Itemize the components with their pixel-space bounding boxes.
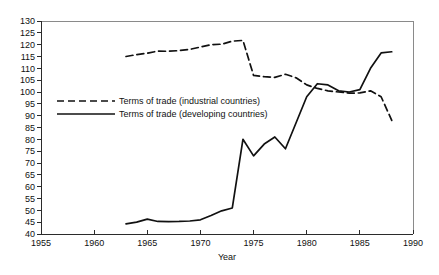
y-axis-tick-label: 95 — [25, 99, 35, 109]
y-axis-tick-label: 50 — [25, 206, 35, 216]
y-axis-tick-label: 110 — [21, 64, 35, 74]
x-axis-tick-label: 1955 — [31, 238, 51, 248]
x-axis-tick-label: 1965 — [137, 238, 157, 248]
legend-label: Terms of trade (industrial countries) — [119, 96, 260, 106]
x-axis: 19551960196519701975198019851990 Year — [31, 230, 423, 262]
x-axis-tick-label: 1970 — [190, 238, 210, 248]
x-axis-title: Year — [218, 252, 236, 262]
y-axis-tick-label: 55 — [25, 194, 35, 204]
y-axis-tick-label: 85 — [25, 123, 35, 133]
y-axis-tick-label: 70 — [25, 158, 35, 168]
series-line-developing — [126, 52, 392, 224]
y-axis-tick-label: 115 — [21, 52, 35, 62]
terms-of-trade-line-chart: 4045505560657075808590951001051101151201… — [0, 0, 439, 275]
y-axis-tick-label: 120 — [20, 40, 35, 50]
y-axis-tick-label: 90 — [25, 111, 35, 121]
x-axis-tick-label: 1960 — [84, 238, 104, 248]
y-axis-tick-label: 75 — [25, 146, 35, 156]
x-axis-tick-label: 1975 — [244, 238, 264, 248]
y-axis-tick-label: 125 — [20, 28, 35, 38]
legend-label: Terms of trade (developing countries) — [119, 109, 268, 119]
y-axis-tick-label: 100 — [20, 87, 35, 97]
y-axis-tick-label: 105 — [20, 75, 35, 85]
y-axis-tick-label: 60 — [25, 182, 35, 192]
x-axis-tick-label: 1985 — [350, 238, 370, 248]
plot-frame — [41, 21, 413, 234]
chart-container: 4045505560657075808590951001051101151201… — [0, 0, 439, 275]
y-axis-tick-label: 130 — [20, 16, 35, 26]
y-axis-tick-label: 80 — [25, 135, 35, 145]
y-axis-tick-label: 65 — [25, 170, 35, 180]
chart-legend: Terms of trade (industrial countries)Ter… — [57, 96, 268, 119]
y-axis: 4045505560657075808590951001051101151201… — [20, 16, 41, 239]
data-series-group — [126, 40, 392, 223]
y-axis-ticks: 4045505560657075808590951001051101151201… — [20, 16, 41, 239]
x-axis-tick-label: 1980 — [297, 238, 317, 248]
x-axis-ticks: 19551960196519701975198019851990 — [31, 230, 423, 248]
x-axis-tick-label: 1990 — [403, 238, 423, 248]
y-axis-tick-label: 45 — [25, 217, 35, 227]
